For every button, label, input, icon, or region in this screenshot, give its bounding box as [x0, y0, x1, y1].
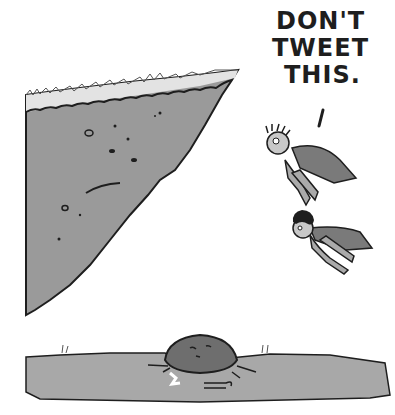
hero-curly-hair [293, 210, 372, 274]
hero-spiky-hair [266, 124, 356, 205]
speech-line-1: DON'T [276, 8, 382, 35]
speech-tail [319, 110, 323, 126]
speech-line-3: THIS. [284, 62, 382, 89]
ground [26, 335, 390, 402]
comic-panel: DON'T TWEET THIS. [0, 0, 395, 415]
speech-line-2: TWEET [272, 35, 382, 62]
speech-text: DON'T TWEET THIS. [272, 8, 382, 89]
cliff [26, 70, 238, 315]
